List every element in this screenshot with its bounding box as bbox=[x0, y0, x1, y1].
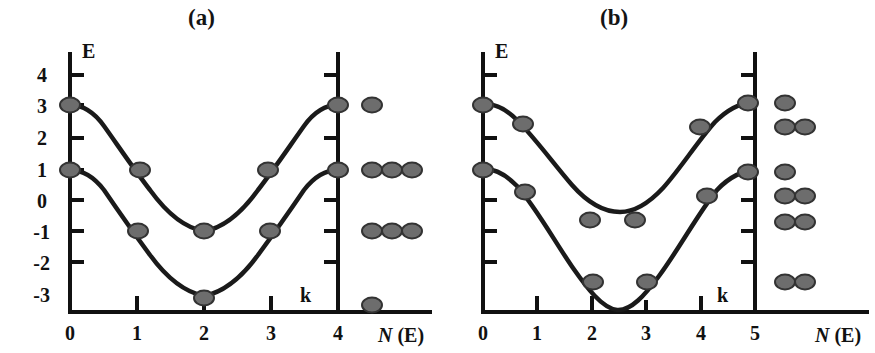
panel-b-plot: 0 1 2 3 4 5 E k bbox=[435, 0, 875, 353]
panel-b-xtick-3: 3 bbox=[641, 322, 651, 344]
panel-b-lower-band-points bbox=[473, 163, 758, 290]
panel-a-xtick-4: 4 bbox=[333, 322, 343, 344]
panel-a-ytick-2: 2 bbox=[37, 127, 47, 149]
panel-b-xtick-4: 4 bbox=[696, 322, 706, 344]
panel-b-xtick-2: 2 bbox=[587, 322, 597, 344]
panel-a-dos-label-n: N bbox=[378, 324, 392, 346]
panel-b-dos-label-e: (E) bbox=[834, 324, 861, 346]
panel-a-xtick-2: 2 bbox=[199, 322, 209, 344]
panel-a: (a) bbox=[0, 0, 440, 353]
panel-a-x-axis-label: k bbox=[300, 284, 312, 306]
panel-b-y-axis-label: E bbox=[495, 40, 508, 62]
panel-b-xtick-0: 0 bbox=[478, 322, 488, 344]
panel-a-xtick-0: 0 bbox=[65, 322, 75, 344]
panel-b-dos-label-n: N bbox=[815, 324, 829, 346]
panel-a-xtick-1: 1 bbox=[132, 322, 142, 344]
panel-a-ytick-m1: -1 bbox=[33, 221, 50, 243]
panel-a-ytick-4: 4 bbox=[37, 64, 47, 86]
panel-a-plot: 4 3 2 1 0 -1 -2 -3 0 1 2 3 4 E k bbox=[0, 0, 440, 353]
panel-a-dos-label-e: (E) bbox=[397, 324, 424, 346]
panel-b: (b) 0 bbox=[435, 0, 875, 353]
panel-a-ytick-0: 0 bbox=[37, 190, 47, 212]
panel-a-ytick-1: 1 bbox=[37, 159, 47, 181]
panel-a-ytick-m2: -2 bbox=[33, 252, 50, 274]
panel-a-xtick-3: 3 bbox=[266, 322, 276, 344]
panel-a-ytick-3: 3 bbox=[37, 95, 47, 117]
panel-b-dos-points bbox=[775, 96, 815, 290]
panel-a-y-axis-label: E bbox=[82, 40, 95, 62]
panel-a-ytick-m3: -3 bbox=[33, 284, 50, 306]
panel-b-xtick-1: 1 bbox=[532, 322, 542, 344]
panel-a-dos-axis-label: N (E) bbox=[378, 324, 424, 347]
panel-a-dos-points bbox=[362, 98, 422, 313]
panel-b-xtick-5: 5 bbox=[750, 322, 760, 344]
panel-a-upper-band-curve bbox=[70, 105, 338, 231]
panel-b-x-axis-label: k bbox=[717, 284, 729, 306]
panel-a-upper-band-points bbox=[60, 98, 348, 239]
panel-b-dos-axis-label: N (E) bbox=[815, 324, 861, 347]
panel-b-upper-band-points bbox=[473, 96, 758, 228]
